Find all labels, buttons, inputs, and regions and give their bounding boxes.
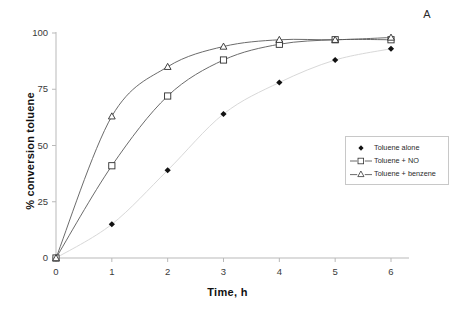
y-tick-label: 75 [20,83,48,94]
data-point [164,63,171,69]
data-point [109,163,115,169]
open-square-icon [350,156,372,166]
x-tick-label: 0 [44,266,68,277]
data-point [276,79,282,85]
legend-label: Toluene + benzene [374,170,436,177]
data-point [388,46,394,52]
series-toluene-alone [56,46,394,258]
series-toluene-benzene [53,34,395,261]
data-point [108,113,115,119]
x-tick-label: 2 [156,266,180,277]
series-line [56,38,391,259]
x-tick-label: 5 [323,266,347,277]
figure-panel-a: A Time, h % conversion toluene 0123456 0… [0,0,455,316]
x-axis-title: Time, h [0,286,455,298]
legend-item-toluene-benzene: Toluene + benzene [350,167,445,180]
legend-label: Toluene alone [374,144,419,151]
data-point [332,57,338,63]
series-line [56,39,391,258]
x-tick-label: 4 [267,266,291,277]
data-point [220,57,226,63]
y-tick-label: 50 [20,140,48,151]
series-toluene-no [53,37,394,261]
series-line [56,49,391,258]
data-point [165,93,171,99]
filled-diamond-icon [350,143,372,153]
open-triangle-icon [350,169,372,179]
legend-item-toluene-no: Toluene + NO [350,154,445,167]
legend-item-toluene-alone: Toluene alone [350,141,445,154]
y-tick-label: 25 [20,196,48,207]
legend-label: Toluene + NO [374,157,419,164]
y-axis-title: % conversion toluene [24,51,36,251]
y-tick-label: 0 [20,252,48,263]
x-tick-label: 6 [379,266,403,277]
x-tick-label: 1 [100,266,124,277]
legend: Toluene alone Toluene + NO Toluene + b [345,136,449,185]
y-tick-label: 100 [20,27,48,38]
x-tick-label: 3 [212,266,236,277]
